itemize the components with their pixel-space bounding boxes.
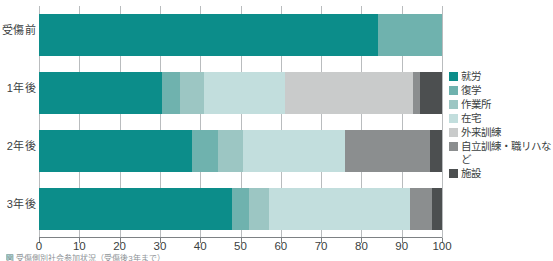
bar-segment [413,72,420,114]
plot-area [39,6,442,238]
bar-segment [269,188,410,230]
bar-segment [180,72,204,114]
legend-swatch-icon [449,142,458,151]
legend-label: 自立訓練・職リハなど [461,140,553,166]
bar-segment [39,188,232,230]
x-tick-label-50: 50 [226,240,256,252]
legend-item[interactable]: 作業所 [449,98,553,111]
bar-segment [430,130,442,172]
bar-row [39,14,442,56]
legend-label: 外来訓練 [461,126,501,139]
x-tick-label-30: 30 [145,240,175,252]
legend-swatch-icon [449,100,458,109]
stacked-bar-chart: 受傷前 1年後 2年後 3年後 0102030405060708090100 就… [0,0,553,261]
bar-segment [39,72,162,114]
y-tick-label-2: 2年後 [0,137,36,153]
bar-segment [218,130,242,172]
bar-segment [162,72,180,114]
x-tick-label-20: 20 [105,240,135,252]
legend-swatch-icon [449,114,458,123]
legend-label: 施設 [461,167,481,180]
bar-segment [378,14,442,56]
legend-swatch-icon [449,72,458,81]
y-tick-label-0: 受傷前 [0,21,36,37]
legend-swatch-icon [449,169,458,178]
x-tick-label-70: 70 [306,240,336,252]
bar-row [39,72,442,114]
bar-segment [345,130,430,172]
legend-swatch-icon [449,86,458,95]
figure-caption: 図 受傷側別社会参加状況（受傷後3年まで） [6,252,426,261]
legend-label: 作業所 [461,98,491,111]
legend-item[interactable]: 自立訓練・職リハなど [449,140,553,166]
x-tick-label-90: 90 [387,240,417,252]
y-tick-label-1: 1年後 [0,79,36,95]
gridline-100 [442,6,443,238]
bar-segment [232,188,248,230]
bar-segment [39,130,192,172]
x-tick-label-60: 60 [266,240,296,252]
legend-swatch-icon [449,128,458,137]
y-tick-label-3: 3年後 [0,195,36,211]
legend-item[interactable]: 復学 [449,84,553,97]
bar-segment [420,72,442,114]
x-tick-label-40: 40 [185,240,215,252]
legend-item[interactable]: 在宅 [449,112,553,125]
x-tick-label-80: 80 [346,240,376,252]
legend-label: 就労 [461,70,481,83]
bar-segment [39,14,378,56]
x-tick-label-10: 10 [64,240,94,252]
bar-segment [192,130,218,172]
bar-segment [285,72,413,114]
x-tick-label-0: 0 [24,240,54,252]
bar-row [39,130,442,172]
legend-item[interactable]: 就労 [449,70,553,83]
bar-segment [204,72,285,114]
x-tick-label-100: 100 [427,240,457,252]
bar-segment [249,188,269,230]
bar-row [39,188,442,230]
bar-segment [432,188,442,230]
legend-label: 在宅 [461,112,481,125]
bar-segment [410,188,432,230]
legend-label: 復学 [461,84,481,97]
legend-item[interactable]: 外来訓練 [449,126,553,139]
legend-item[interactable]: 施設 [449,167,553,180]
legend: 就労復学作業所在宅外来訓練自立訓練・職リハなど施設 [449,70,553,181]
bar-segment [243,130,346,172]
